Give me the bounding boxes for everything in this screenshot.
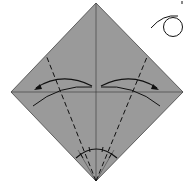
diagram-canvas bbox=[0, 0, 192, 182]
turn-over-symbol bbox=[151, 1, 183, 37]
origami-diagram bbox=[0, 0, 192, 182]
